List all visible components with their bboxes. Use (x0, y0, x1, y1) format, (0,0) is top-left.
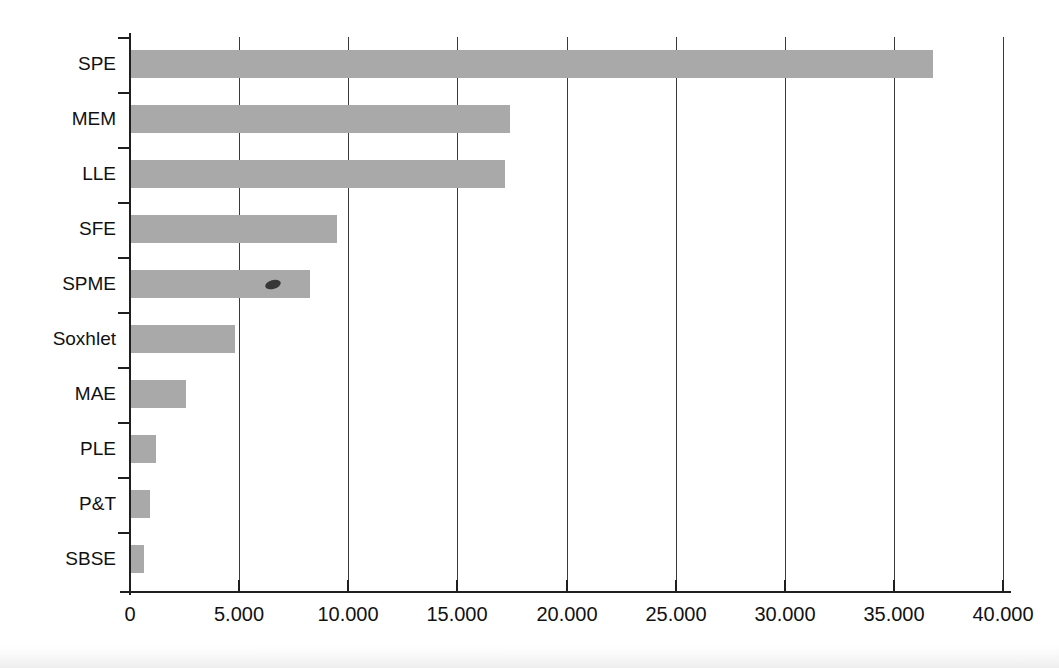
x-ticklabel-25000: 25.000 (616, 602, 736, 626)
bar-mem[interactable] (130, 105, 510, 133)
x-ticklabel-30000: 30.000 (725, 602, 845, 626)
y-ticklabel-mae: MAE (0, 384, 116, 404)
bar-spe[interactable] (130, 50, 933, 78)
x-ticklabel-20000: 20.000 (507, 602, 627, 626)
x-tick-25000 (675, 580, 677, 593)
x-tick-30000 (784, 580, 786, 593)
y-tick-top (118, 37, 130, 39)
y-ticklabel-pt: P&T (0, 494, 116, 514)
x-ticklabel-text: 20.000 (536, 603, 597, 625)
y-tick-8 (118, 477, 130, 479)
gridline-30000 (785, 37, 786, 592)
x-ticklabel-text: 0 (124, 603, 135, 625)
x-ticklabel-35000: 35.000 (834, 602, 954, 626)
x-ticklabel-text: 5.000 (214, 603, 264, 625)
y-tick-1 (118, 92, 130, 94)
bar-chart: SPE MEM LLE SFE SPME Soxhlet MAE PLE P&T… (0, 0, 1059, 668)
y-ticklabel-text: MEM (72, 108, 116, 129)
bar-lle[interactable] (130, 160, 505, 188)
x-ticklabel-text: 25.000 (645, 603, 706, 625)
x-ticklabel-5000: 5.000 (179, 602, 299, 626)
bar-sfe[interactable] (130, 215, 337, 243)
y-tick-6 (118, 367, 130, 369)
bar-mae[interactable] (130, 380, 186, 408)
y-ticklabel-sbse: SBSE (0, 549, 116, 569)
y-ticklabel-text: P&T (79, 493, 116, 514)
y-ticklabel-ple: PLE (0, 439, 116, 459)
y-ticklabel-spme: SPME (0, 274, 116, 294)
x-tick-20000 (566, 580, 568, 593)
x-ticklabel-40000: 40.000 (943, 602, 1059, 626)
y-ticklabel-text: SPME (62, 273, 116, 294)
y-ticklabel-text: SFE (79, 218, 116, 239)
x-ticklabel-10000: 10.000 (288, 602, 408, 626)
gridline-35000 (894, 37, 895, 592)
y-ticklabel-sfe: SFE (0, 219, 116, 239)
y-ticklabel-text: SPE (78, 53, 116, 74)
y-ticklabel-text: LLE (82, 163, 116, 184)
x-ticklabel-text: 10.000 (317, 603, 378, 625)
x-tick-5000 (238, 580, 240, 593)
bar-sbse[interactable] (130, 545, 144, 573)
y-tick-9 (118, 532, 130, 534)
x-ticklabel-text: 35.000 (863, 603, 924, 625)
x-tick-10000 (347, 580, 349, 593)
y-ticklabel-text: SBSE (65, 548, 116, 569)
y-ticklabel-text: Soxhlet (53, 328, 116, 349)
x-tick-0 (129, 580, 131, 593)
x-ticklabel-0: 0 (70, 602, 190, 626)
scan-bottom-edge (0, 646, 1059, 668)
x-ticklabel-text: 30.000 (754, 603, 815, 625)
y-tick-5 (118, 312, 130, 314)
x-tick-40000 (1002, 580, 1004, 593)
x-ticklabel-15000: 15.000 (397, 602, 517, 626)
y-tick-3 (118, 202, 130, 204)
bar-soxhlet[interactable] (130, 325, 235, 353)
y-ticklabel-text: MAE (75, 383, 116, 404)
x-tick-15000 (456, 580, 458, 593)
y-axis-line (129, 33, 131, 595)
x-ticklabel-text: 40.000 (972, 603, 1033, 625)
y-ticklabel-spe: SPE (0, 54, 116, 74)
bar-pt[interactable] (130, 490, 150, 518)
x-tick-35000 (893, 580, 895, 593)
y-ticklabel-lle: LLE (0, 164, 116, 184)
x-ticklabel-text: 15.000 (426, 603, 487, 625)
y-tick-4 (118, 257, 130, 259)
plot-area (130, 37, 1003, 592)
y-ticklabel-text: PLE (80, 438, 116, 459)
gridline-25000 (676, 37, 677, 592)
y-ticklabel-soxhlet: Soxhlet (0, 329, 116, 349)
y-tick-2 (118, 147, 130, 149)
y-ticklabel-mem: MEM (0, 109, 116, 129)
gridline-40000 (1003, 37, 1004, 592)
y-tick-7 (118, 422, 130, 424)
bar-spme[interactable] (130, 270, 310, 298)
gridline-20000 (567, 37, 568, 592)
bar-ple[interactable] (130, 435, 156, 463)
